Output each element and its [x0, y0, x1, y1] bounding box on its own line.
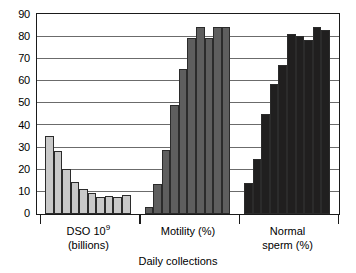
bar [179, 69, 188, 214]
y-tick-label: 10 [6, 186, 30, 197]
group-separator-tick [40, 215, 41, 224]
category-label-line1: Normal [228, 224, 348, 238]
bar [62, 169, 71, 214]
y-axis-tick-labels: 9080706050403020100 [2, 0, 30, 273]
bar [162, 150, 171, 214]
bar-chart-figure: 9080706050403020100 DSO 109(billions)Mot… [0, 0, 356, 273]
category-label-superscript: 9 [106, 223, 110, 232]
y-tick-label: 20 [6, 164, 30, 175]
y-tick-label: 90 [6, 9, 30, 20]
bar [88, 193, 97, 214]
bar [321, 30, 330, 214]
bar [145, 207, 154, 214]
category-label: Normalsperm (%) [228, 224, 348, 252]
group-separator-tick [239, 215, 240, 224]
bar [205, 38, 214, 214]
group-separator-tick [139, 215, 140, 224]
bars-layer [37, 14, 339, 214]
bar [296, 36, 305, 214]
bar [105, 196, 114, 214]
y-tick-label: 70 [6, 53, 30, 64]
bar [313, 27, 322, 214]
bar [213, 27, 222, 214]
bar [261, 114, 270, 215]
group-separator-tick [338, 215, 339, 224]
bar [170, 105, 179, 214]
bar [71, 182, 80, 214]
bar [244, 183, 253, 214]
plot-area [36, 13, 340, 215]
y-tick-label: 0 [6, 208, 30, 219]
y-tick-label: 80 [6, 31, 30, 42]
bar [253, 159, 262, 214]
x-axis-title: Daily collections [0, 255, 356, 267]
bar [79, 189, 88, 214]
category-label-line2: sperm (%) [228, 238, 348, 252]
bar [222, 27, 231, 214]
bar [96, 197, 105, 214]
y-tick-label: 40 [6, 120, 30, 131]
bar [270, 84, 279, 214]
bar [153, 184, 162, 214]
category-label-line2: (billions) [28, 238, 148, 252]
bar [54, 151, 63, 214]
bar [278, 65, 287, 214]
bar [287, 34, 296, 214]
bar [187, 38, 196, 214]
bar [113, 197, 122, 214]
y-tick-label: 30 [6, 142, 30, 153]
bar [45, 136, 54, 214]
bar [196, 27, 205, 214]
y-tick-label: 50 [6, 97, 30, 108]
bar [304, 40, 313, 215]
bar [122, 195, 131, 214]
y-tick-label: 60 [6, 75, 30, 86]
